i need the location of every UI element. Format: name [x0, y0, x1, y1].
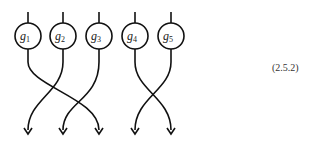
braid-diagram: g1 g2 g3 g4 g5 [0, 0, 309, 142]
equation-label: (2.5.2) [272, 62, 299, 73]
